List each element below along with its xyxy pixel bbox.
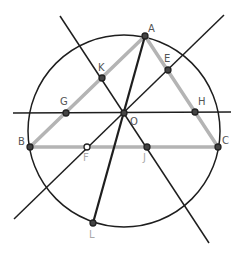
label-b: B (18, 136, 25, 147)
line-through-E-O-F (14, 15, 224, 219)
diagram-canvas: ABCOEKGHFJL (0, 0, 242, 254)
point-e (165, 67, 171, 73)
point-c (215, 144, 221, 150)
label-o: O (130, 116, 138, 127)
point-f (84, 144, 90, 150)
points (27, 33, 221, 226)
label-h: H (198, 96, 206, 107)
triangle-abc (30, 36, 218, 147)
construction-lines (13, 15, 231, 243)
point-g (63, 110, 69, 116)
label-k: K (98, 62, 105, 73)
geometry-diagram: ABCOEKGHFJL (0, 0, 242, 254)
label-l: L (89, 229, 95, 240)
label-e: E (164, 53, 170, 64)
point-k (99, 75, 105, 81)
label-f: F (83, 152, 89, 163)
point-j (144, 144, 150, 150)
label-c: C (222, 135, 229, 146)
point-b (27, 144, 33, 150)
triangle-sides (30, 36, 218, 147)
point-h (192, 109, 198, 115)
circumcircle (28, 35, 220, 227)
label-j: J (142, 152, 146, 163)
label-g: G (60, 96, 68, 107)
point-l (90, 220, 96, 226)
line-through-K-O-J (60, 16, 209, 243)
label-a: A (148, 23, 155, 34)
point-o (121, 110, 127, 116)
